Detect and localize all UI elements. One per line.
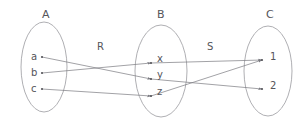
set-ellipse-a [21, 22, 67, 112]
element-label-2: 2 [270, 80, 276, 91]
set-label-c: C [266, 8, 274, 21]
element-label-x: x [157, 53, 163, 64]
element-label-b: b [31, 67, 37, 78]
element-dot-b [41, 72, 43, 74]
set-label-a: A [42, 8, 50, 21]
element-dot-x [150, 62, 152, 64]
element-label-1: 1 [270, 51, 276, 62]
element-label-a: a [31, 51, 37, 62]
edge-c-to-z [42, 89, 151, 96]
set-ellipse-c [244, 26, 292, 116]
element-label-y: y [157, 69, 163, 80]
relation-label-r: R [97, 41, 104, 52]
element-label-c: c [31, 83, 37, 94]
element-dot-2 [261, 88, 263, 90]
element-label-z: z [157, 86, 162, 97]
element-dot-1 [261, 59, 263, 61]
edge-z-to-1 [151, 60, 262, 96]
element-dot-z [150, 95, 152, 97]
element-dot-a [41, 56, 43, 58]
set-label-b: B [157, 8, 165, 21]
edge-x-to-1 [151, 60, 262, 63]
element-dot-c [41, 88, 43, 90]
relation-diagram-canvas: AabcBxyzC12RS [0, 0, 307, 126]
element-dot-y [150, 78, 152, 80]
relation-label-s: S [207, 41, 213, 52]
